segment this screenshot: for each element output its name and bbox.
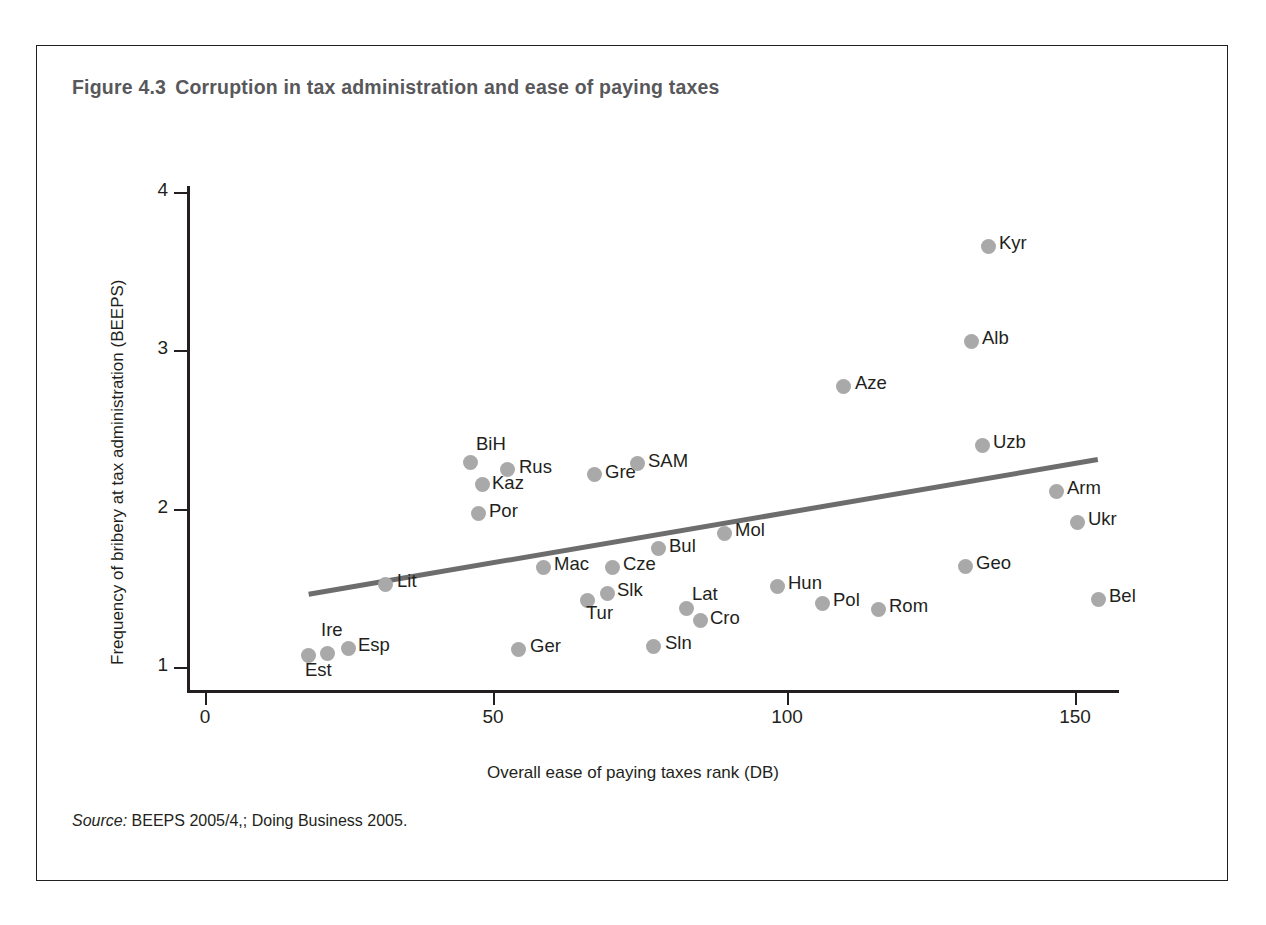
data-point-label: Rus [519, 456, 552, 478]
scatter-plot: 4321050100150EstIreEspLitBiHPorKazRusGer… [0, 0, 1266, 925]
x-tick-label: 50 [463, 706, 523, 728]
data-point-label: Slk [617, 579, 643, 601]
y-tick-label: 2 [128, 496, 168, 518]
x-tick-mark [493, 692, 495, 705]
y-axis-line [187, 186, 190, 692]
data-point-label: Bul [669, 535, 696, 557]
data-point[interactable] [958, 559, 973, 574]
data-point[interactable] [975, 438, 990, 453]
y-tick-mark [174, 667, 187, 669]
y-axis-title: Frequency of bribery at tax administrati… [108, 280, 128, 666]
data-point-label: Arm [1067, 477, 1101, 499]
source-label: Source: [72, 812, 127, 829]
x-tick-label: 150 [1045, 706, 1105, 728]
data-point[interactable] [717, 526, 732, 541]
data-point[interactable] [320, 646, 335, 661]
data-point[interactable] [511, 642, 526, 657]
data-point[interactable] [770, 579, 785, 594]
source-text: BEEPS 2005/4,; Doing Business 2005. [132, 812, 408, 829]
data-point[interactable] [815, 596, 830, 611]
data-point-label: Tur [586, 602, 613, 624]
data-point[interactable] [536, 560, 551, 575]
data-point[interactable] [605, 560, 620, 575]
data-point-label: Pol [833, 589, 860, 611]
data-point[interactable] [463, 455, 478, 470]
data-point-label: Ire [321, 619, 343, 641]
data-point-label: Lit [397, 570, 417, 592]
x-tick-mark [205, 692, 207, 705]
data-point[interactable] [471, 506, 486, 521]
x-tick-mark [1075, 692, 1077, 705]
data-point-label: Cro [710, 607, 740, 629]
data-point-label: Aze [855, 372, 887, 394]
data-point[interactable] [693, 613, 708, 628]
data-point-label: BiH [476, 433, 506, 455]
data-point[interactable] [500, 462, 515, 477]
data-point[interactable] [1049, 484, 1064, 499]
data-point-label: Mac [554, 553, 589, 575]
x-axis-line [187, 690, 1119, 693]
data-point[interactable] [646, 639, 661, 654]
data-point[interactable] [836, 379, 851, 394]
data-point[interactable] [600, 586, 615, 601]
data-point[interactable] [871, 602, 886, 617]
data-point-label: Sln [665, 632, 692, 654]
y-tick-mark [174, 350, 187, 352]
data-point-label: Rom [889, 595, 928, 617]
x-tick-mark [787, 692, 789, 705]
data-point[interactable] [964, 334, 979, 349]
data-point-label: Por [489, 500, 518, 522]
x-tick-label: 0 [175, 706, 235, 728]
data-point-label: Geo [976, 552, 1011, 574]
y-tick-label: 4 [128, 179, 168, 201]
y-tick-label: 3 [128, 337, 168, 359]
x-axis-title: Overall ease of paying taxes rank (DB) [0, 763, 1266, 783]
data-point[interactable] [1091, 592, 1106, 607]
data-point[interactable] [981, 239, 996, 254]
data-point-label: Bel [1109, 585, 1136, 607]
source-note: Source: BEEPS 2005/4,; Doing Business 20… [72, 812, 407, 830]
y-tick-label: 1 [128, 654, 168, 676]
data-point[interactable] [378, 577, 393, 592]
data-point-label: Ger [530, 635, 561, 657]
data-point-label: Est [305, 659, 332, 681]
data-point[interactable] [587, 467, 602, 482]
data-point-label: Hun [788, 572, 822, 594]
data-point-label: Cze [623, 553, 656, 575]
x-tick-label: 100 [757, 706, 817, 728]
data-point-label: Alb [982, 327, 1009, 349]
data-point[interactable] [341, 641, 356, 656]
data-point-label: Ukr [1088, 508, 1117, 530]
y-tick-mark [174, 192, 187, 194]
data-point[interactable] [630, 456, 645, 471]
data-point[interactable] [651, 541, 666, 556]
data-point-label: Kyr [999, 232, 1027, 254]
data-point-label: Esp [358, 634, 390, 656]
y-tick-mark [174, 509, 187, 511]
data-point-label: Mol [735, 519, 765, 541]
data-point-label: Uzb [993, 431, 1026, 453]
data-point[interactable] [475, 477, 490, 492]
data-point[interactable] [1070, 515, 1085, 530]
figure-page: Figure 4.3Corruption in tax administrati… [0, 0, 1266, 925]
data-point-label: Lat [692, 583, 718, 605]
data-point-label: SAM [648, 450, 688, 472]
